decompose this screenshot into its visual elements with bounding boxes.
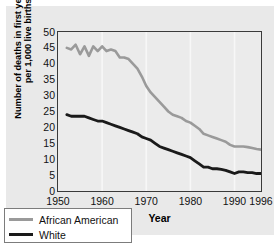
chart-svg <box>58 32 261 191</box>
figure: Number of deaths in first year of life p… <box>0 0 280 247</box>
chart-legend: African American White <box>4 208 132 243</box>
legend-swatch-african-american <box>9 218 33 221</box>
series-line-african-american <box>67 45 261 150</box>
y-tick-label: 25 <box>33 106 55 116</box>
x-tick-label: 1960 <box>82 195 122 207</box>
legend-label-african-american: African American <box>39 214 118 226</box>
y-tick-label: 40 <box>33 58 55 68</box>
y-tick-label: 5 <box>33 170 55 180</box>
x-tick-label: 1980 <box>170 195 210 207</box>
y-tick-label: 45 <box>33 42 55 52</box>
legend-item-white: White <box>9 227 127 242</box>
y-tick-label: 50 <box>33 27 55 37</box>
series-line-white <box>67 115 261 174</box>
x-tick-label: 1970 <box>126 195 166 207</box>
y-tick-label: 0 <box>33 186 55 196</box>
legend-swatch-white <box>9 233 33 236</box>
x-tick-label: 1950 <box>38 195 78 207</box>
y-tick-label: 35 <box>33 74 55 84</box>
y-tick-label: 10 <box>33 154 55 164</box>
y-tick-label: 15 <box>33 138 55 148</box>
y-tick-label: 30 <box>33 90 55 100</box>
legend-label-white: White <box>39 229 66 241</box>
legend-item-african-american: African American <box>9 212 127 227</box>
x-tick-label: 1996 <box>241 195 280 207</box>
y-tick-label: 20 <box>33 122 55 132</box>
plot-area <box>57 31 262 192</box>
